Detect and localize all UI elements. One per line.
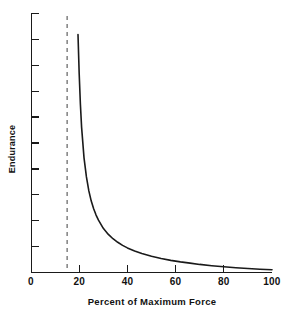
chart-figure: 0 20 40 60 80 100 Endurance Percent of M… <box>0 0 289 316</box>
chart-plot-area <box>0 0 289 316</box>
x-tick-label-20: 20 <box>73 276 85 287</box>
x-tick-label-60: 60 <box>170 276 182 287</box>
x-tick-label-80: 80 <box>218 276 230 287</box>
x-axis-title: Percent of Maximum Force <box>31 296 273 307</box>
x-tick-label-100: 100 <box>263 276 280 287</box>
x-tick-label-40: 40 <box>122 276 134 287</box>
x-tick-label-0: 0 <box>28 276 34 287</box>
